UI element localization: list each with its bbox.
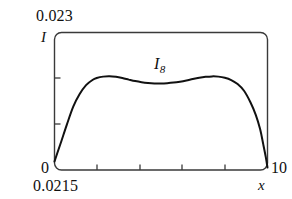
y-axis-min-label: 0 (41, 160, 49, 176)
curve-annotation-base: I (154, 55, 159, 72)
y-axis-max-label: 0.023 (36, 8, 73, 24)
y-axis-ticks (55, 78, 61, 124)
curve-i8 (55, 76, 268, 167)
x-axis-min-label: 0.0215 (33, 178, 78, 194)
intensity-distribution-figure: 0.023 I 0 0.0215 10 x I8 (0, 0, 292, 199)
y-axis-name-label: I (41, 30, 46, 45)
curve-annotation-subscript: 8 (160, 63, 166, 75)
x-axis-max-label: 10 (271, 160, 287, 176)
plot-frame (55, 33, 268, 171)
curve-annotation: I8 (154, 56, 165, 75)
x-axis-name-label: x (258, 178, 265, 193)
x-axis-ticks (97, 165, 225, 171)
